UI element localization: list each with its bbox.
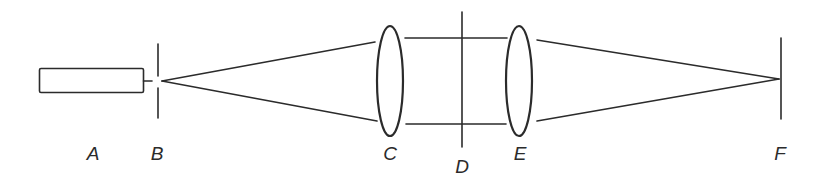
label-f: F	[774, 144, 786, 163]
ray-upper-e-f	[537, 40, 779, 79]
source-rectangle	[40, 69, 144, 93]
optical-diagram	[0, 0, 821, 174]
ray-upper-b-c	[162, 42, 375, 81]
label-e: E	[514, 144, 527, 163]
ray-lower-e-f	[537, 79, 779, 121]
lens-c	[377, 26, 403, 136]
label-d: D	[455, 157, 469, 175]
source-a	[40, 69, 153, 93]
converging-rays	[537, 40, 779, 121]
label-b: B	[151, 144, 164, 163]
label-a: A	[87, 144, 100, 163]
label-c: C	[383, 144, 397, 163]
diverging-rays	[162, 42, 377, 121]
collimated-beam	[405, 38, 507, 124]
lens-e	[506, 26, 532, 136]
ray-lower-b-c	[162, 81, 377, 121]
